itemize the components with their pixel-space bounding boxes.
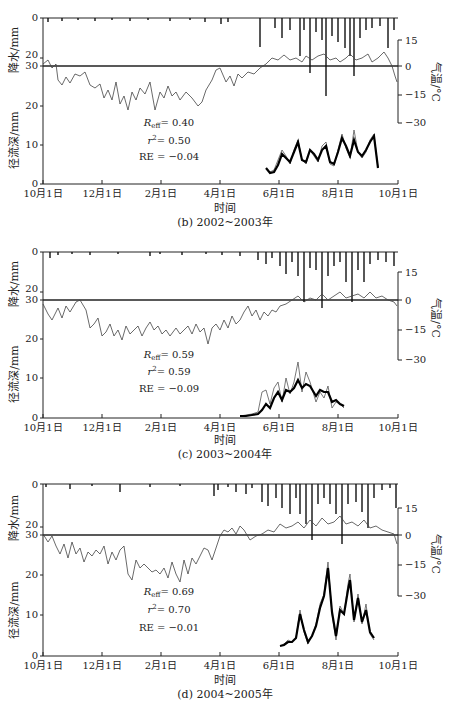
panel-d: 0 20 30 20 10 0 15 0 −15 −30 10月1日 12月1日… xyxy=(0,464,450,703)
temp-tick-m30: −30 xyxy=(405,117,426,128)
x-tick-0: 10月1日 xyxy=(23,660,62,671)
runoff-tick-30: 30 xyxy=(25,294,38,305)
runoff-tick-30: 30 xyxy=(25,60,38,71)
runoff-tick-10: 10 xyxy=(25,609,38,620)
x-tick-3: 4月1日 xyxy=(204,660,237,671)
temp-tick-0: 0 xyxy=(405,295,411,306)
svg-text:Reff= 0.40: Reff= 0.40 xyxy=(143,117,194,130)
x-tick-6: 10月1日 xyxy=(378,660,417,671)
precip-axis-title: 降水/mm xyxy=(7,260,21,307)
runoff-tick-10: 10 xyxy=(25,139,38,150)
runoff-axis-title: 径流深/mm xyxy=(7,581,21,639)
caption-c: (c) 2003~2004年 xyxy=(0,445,450,461)
svg-text:r2= 0.70: r2= 0.70 xyxy=(147,603,190,615)
temp-tick-m15: −15 xyxy=(405,324,426,335)
temp-tick-m30: −30 xyxy=(405,354,426,365)
runoff-tick-30: 30 xyxy=(25,529,38,540)
runoff-tick-20: 20 xyxy=(25,100,38,111)
temp-axis-title: 气温/°C xyxy=(429,298,443,338)
temp-axis-title: 气温/°C xyxy=(429,62,443,102)
temp-axis-title: 气温/°C xyxy=(429,534,443,574)
runoff-axis-title: 径流深/mm xyxy=(7,111,21,169)
simulated-runoff-line xyxy=(266,136,378,173)
svg-text:r2= 0.50: r2= 0.50 xyxy=(147,134,190,146)
temp-tick-15: 15 xyxy=(405,267,418,278)
precip-tick-20: 20 xyxy=(25,49,38,60)
x-tick-4: 6月1日 xyxy=(263,660,296,671)
runoff-tick-20: 20 xyxy=(25,569,38,580)
temp-tick-m15: −15 xyxy=(405,559,426,570)
x-tick-5: 8月1日 xyxy=(322,188,355,199)
runoff-tick-10: 10 xyxy=(25,372,38,383)
x-tick-2: 2月1日 xyxy=(145,188,178,199)
re-c: RE = −0.09 xyxy=(139,383,199,394)
x-tick-1: 12月1日 xyxy=(82,660,121,671)
temp-tick-15: 15 xyxy=(405,35,418,46)
svg-text:Reff= 0.59: Reff= 0.59 xyxy=(143,349,194,362)
runoff-axis-title: 径流深/mm xyxy=(7,345,21,403)
precip-tick-0: 0 xyxy=(32,479,38,490)
precip-tick-0: 0 xyxy=(32,12,38,23)
simulated-runoff-line xyxy=(240,380,344,416)
simulated-runoff-line xyxy=(280,568,374,646)
stats-d: Reff= 0.69 r2= 0.70 RE = −0.01 xyxy=(139,586,199,633)
temp-tick-m15: −15 xyxy=(405,89,426,100)
runoff-tick-20: 20 xyxy=(25,333,38,344)
re-b: RE = −0.04 xyxy=(139,151,199,162)
svg-text:r2= 0.59: r2= 0.59 xyxy=(147,365,190,377)
panel-c: 0 20 30 20 10 0 15 0 −15 −30 10月1日 12月1日… xyxy=(0,232,450,462)
chart-c: 0 20 30 20 10 0 15 0 −15 −30 10月1日 12月1日… xyxy=(0,232,450,432)
precip-axis-title: 降水/mm xyxy=(7,26,21,73)
svg-text:Reff= 0.69: Reff= 0.69 xyxy=(143,586,194,599)
temp-tick-m30: −30 xyxy=(405,590,426,601)
stats-b: Reff= 0.40 r2= 0.50 RE = −0.04 xyxy=(139,117,199,162)
precip-tick-20: 20 xyxy=(25,283,38,294)
x-tick-2: 2月1日 xyxy=(145,660,178,671)
precip-axis-title: 降水/mm xyxy=(7,494,21,541)
x-tick-4: 6月1日 xyxy=(263,188,296,199)
x-tick-3: 4月1日 xyxy=(204,188,237,199)
temp-tick-0: 0 xyxy=(405,530,411,541)
caption-d: (d) 2004~2005年 xyxy=(0,685,450,701)
stats-c: Reff= 0.59 r2= 0.59 RE = −0.09 xyxy=(139,349,199,394)
temp-tick-15: 15 xyxy=(405,503,418,514)
caption-b: (b) 2002~2003年 xyxy=(0,213,450,229)
panel-b: 0 20 30 20 10 0 15 0 −15 −30 10月1日 12月1日… xyxy=(0,0,450,230)
x-tick-0: 10月1日 xyxy=(23,188,62,199)
temperature-line xyxy=(43,52,397,110)
temp-tick-0: 0 xyxy=(405,61,411,72)
chart-d: 0 20 30 20 10 0 15 0 −15 −30 10月1日 12月1日… xyxy=(0,464,450,674)
temperature-line xyxy=(43,516,397,582)
x-tick-1: 12月1日 xyxy=(82,188,121,199)
x-tick-5: 8月1日 xyxy=(322,660,355,671)
x-tick-6: 10月1日 xyxy=(378,188,417,199)
chart-b: 0 20 30 20 10 0 15 0 −15 −30 10月1日 12月1日… xyxy=(0,0,450,200)
precip-tick-0: 0 xyxy=(32,246,38,257)
re-d: RE = −0.01 xyxy=(139,622,199,633)
